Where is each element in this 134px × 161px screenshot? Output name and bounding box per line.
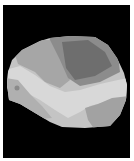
region-dark-spot bbox=[15, 86, 20, 91]
segmented-map bbox=[3, 5, 130, 158]
image-frame bbox=[3, 5, 130, 158]
